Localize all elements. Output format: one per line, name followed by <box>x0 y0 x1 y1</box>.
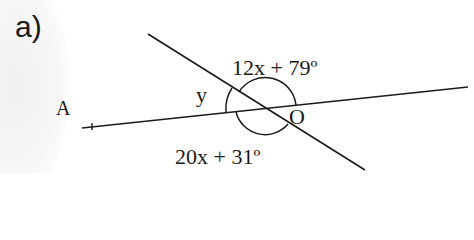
y-angle-label: y <box>196 84 207 106</box>
lower-angle-label: 20x + 31º <box>175 146 260 168</box>
lower-angle-arc <box>236 112 288 135</box>
y-angle-arc <box>226 88 232 112</box>
intersection-label: O <box>289 106 305 128</box>
upper-angle-label: 12x + 79º <box>232 57 317 79</box>
upper-angle-arc <box>239 78 296 105</box>
line-through-a <box>82 87 468 128</box>
point-a-label: A <box>56 98 70 118</box>
